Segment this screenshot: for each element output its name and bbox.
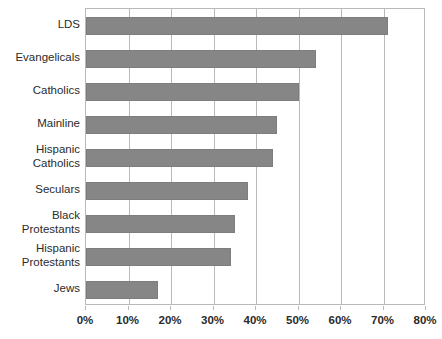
- bar-chart: LDSEvangelicalsCatholicsMainlineHispanic…: [0, 0, 442, 339]
- x-tick-mark: [425, 306, 426, 310]
- x-tick-mark: [170, 306, 171, 310]
- x-tick-label: 50%: [275, 313, 321, 327]
- y-axis-label: Hispanic Protestants: [0, 242, 80, 269]
- x-tick-mark: [213, 306, 214, 310]
- x-tick-label: 0%: [62, 313, 108, 327]
- gridline-70: [384, 9, 385, 304]
- x-axis: 0%10%20%30%40%50%60%70%80%: [85, 306, 425, 334]
- y-axis-label: LDS: [0, 18, 80, 32]
- x-tick-label: 60%: [317, 313, 363, 327]
- y-axis-category-labels: LDSEvangelicalsCatholicsMainlineHispanic…: [0, 8, 80, 305]
- bar: [86, 248, 231, 266]
- x-tick-label: 80%: [402, 313, 442, 327]
- x-tick-mark: [128, 306, 129, 310]
- x-tick-mark: [298, 306, 299, 310]
- x-tick-label: 70%: [360, 313, 406, 327]
- bar: [86, 50, 316, 68]
- x-tick-label: 20%: [147, 313, 193, 327]
- x-tick-label: 30%: [190, 313, 236, 327]
- y-axis-label: Seculars: [0, 183, 80, 197]
- bar: [86, 116, 277, 134]
- x-tick-mark: [85, 306, 86, 310]
- bar: [86, 281, 158, 299]
- y-axis-label: Mainline: [0, 117, 80, 131]
- x-tick-mark: [255, 306, 256, 310]
- x-tick-mark: [340, 306, 341, 310]
- bar: [86, 149, 273, 167]
- y-axis-label: Catholics: [0, 84, 80, 98]
- x-tick-mark: [383, 306, 384, 310]
- gridline-60: [341, 9, 342, 304]
- y-axis-label: Hispanic Catholics: [0, 143, 80, 170]
- bar: [86, 215, 235, 233]
- plot-area: [85, 8, 425, 305]
- x-tick-label: 10%: [105, 313, 151, 327]
- x-tick-label: 40%: [232, 313, 278, 327]
- bar: [86, 17, 388, 35]
- y-axis-label: Jews: [0, 282, 80, 296]
- bar: [86, 182, 248, 200]
- bar: [86, 83, 299, 101]
- y-axis-label: Black Protestants: [0, 209, 80, 236]
- y-axis-label: Evangelicals: [0, 51, 80, 65]
